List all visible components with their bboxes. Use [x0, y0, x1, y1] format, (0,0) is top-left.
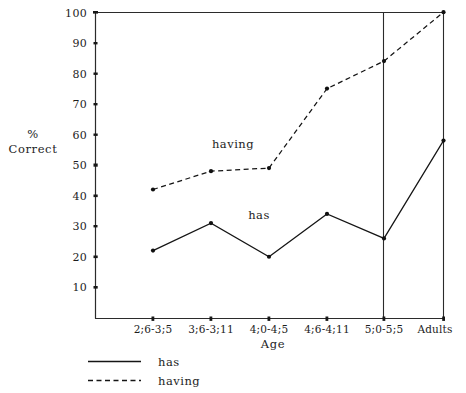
y-tick-label-30: 30: [72, 220, 87, 233]
x-tick-1: [210, 317, 213, 321]
series-has-line: [153, 141, 444, 257]
annotation-having: having: [212, 137, 254, 151]
data-point: [325, 212, 329, 216]
legend-label-has: has: [158, 355, 180, 369]
y-tick-label-80: 80: [72, 68, 87, 81]
data-point: [151, 187, 155, 191]
y-tick-label-70: 70: [72, 98, 87, 111]
y-axis-tick-labels: 100 90 80 70 60 50 40 30 20 10: [65, 7, 87, 295]
data-point: [209, 221, 213, 225]
data-point: [441, 138, 445, 142]
data-point: [382, 236, 386, 240]
y-tick-10: [94, 286, 98, 289]
data-point: [267, 255, 271, 259]
x-tick-3: [326, 317, 329, 321]
y-tick-90: [94, 42, 98, 44]
series-having: [151, 10, 446, 191]
chart-annotations: having has: [212, 137, 270, 222]
data-point: [325, 87, 329, 91]
y-tick-20: [94, 256, 98, 259]
y-tick-40: [94, 195, 98, 198]
y-tick-80: [94, 73, 98, 75]
x-tick-label-2: 4;0-4;5: [250, 323, 289, 335]
x-tick-2: [268, 317, 271, 321]
y-tick-30: [94, 225, 98, 227]
x-tick-0: [152, 317, 155, 321]
y-tick-label-50: 50: [72, 159, 87, 172]
y-tick-label-20: 20: [72, 251, 87, 264]
chart-axes: [95, 12, 444, 319]
y-tick-label-10: 10: [72, 281, 87, 294]
data-point: [209, 169, 213, 173]
legend-label-having: having: [158, 374, 200, 388]
y-axis-title: % Correct: [9, 127, 58, 156]
y-tick-60: [94, 134, 98, 136]
series-has: [151, 138, 446, 258]
y-tick-label-90: 90: [72, 37, 87, 50]
y-tick-label-40: 40: [72, 190, 87, 203]
y-tick-label-100: 100: [65, 7, 87, 20]
line-chart: 100 90 80 70 60 50 40 30 20 10 % Correct: [0, 0, 466, 393]
y-axis-title-correct: Correct: [9, 142, 58, 156]
x-tick-label-3: 4;6-4;11: [304, 323, 350, 335]
y-tick-label-60: 60: [72, 129, 87, 142]
series-having-markers: [151, 10, 446, 191]
x-axis-tick-labels: 2;6-3;5 3;6-3;11 4;0-4;5 4;6-4;11 5;0-5;…: [134, 323, 453, 335]
x-tick-label-4: 5;0-5;5: [365, 323, 404, 335]
y-tick-50: [94, 164, 98, 167]
series-has-markers: [151, 138, 446, 258]
x-tick-label-0: 2;6-3;5: [134, 323, 173, 335]
x-tick-label-1: 3;6-3;11: [188, 323, 234, 335]
data-point: [151, 249, 155, 253]
x-tick-5: [442, 317, 445, 321]
y-tick-100: [93, 11, 98, 14]
x-axis-title: Age: [260, 337, 285, 351]
y-tick-70: [94, 103, 98, 105]
x-tick-label-5: Adults: [416, 323, 452, 335]
x-tick-4: [383, 317, 386, 321]
chart-legend: has having: [88, 355, 200, 388]
series-having-line: [153, 12, 444, 189]
data-point: [267, 166, 271, 170]
annotation-has: has: [248, 208, 270, 222]
data-point: [382, 59, 386, 63]
data-point: [441, 10, 445, 14]
y-axis-title-percent: %: [27, 127, 39, 141]
chart-container: 100 90 80 70 60 50 40 30 20 10 % Correct: [0, 0, 466, 393]
